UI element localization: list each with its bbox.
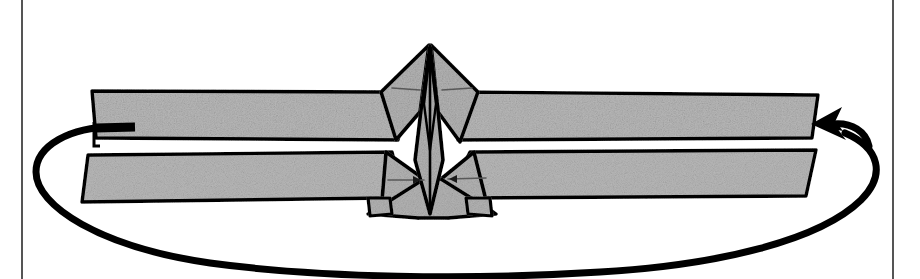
upper-band-left [92, 91, 404, 140]
figure-root: Line drawing of two horizontal gray fabr… [0, 0, 920, 279]
lower-band-left [82, 152, 398, 202]
illustration-canvas [0, 0, 920, 279]
lower-band-left-tail [368, 198, 392, 216]
upper-band-right [452, 92, 818, 140]
lower-band-right-tail [466, 198, 492, 216]
cord-tail-left [96, 127, 135, 128]
lower-band-right [458, 150, 816, 198]
